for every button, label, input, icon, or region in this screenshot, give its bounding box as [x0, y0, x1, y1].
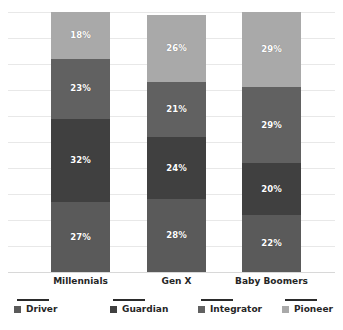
bar-segment-label: 32%	[70, 156, 91, 165]
legend-swatch-icon	[282, 306, 289, 313]
bar-segment-label: 27%	[70, 233, 91, 242]
bar-group[interactable]: 26%21%24%28%	[147, 15, 206, 272]
legend-label: Driver	[26, 305, 57, 314]
bar-stack: 18%23%32%27%	[51, 12, 110, 272]
bar-stack: 26%21%24%28%	[147, 15, 206, 272]
legend-item[interactable]: Pioneer	[282, 297, 333, 321]
legend-swatch-icon	[14, 306, 21, 313]
legend-row: Integrator	[198, 305, 262, 314]
legend-rule	[113, 299, 145, 301]
bar-segment-label: 24%	[166, 164, 187, 173]
legend-item[interactable]: Driver	[14, 297, 57, 321]
bar-segment-label: 29%	[261, 121, 282, 130]
legend-row: Guardian	[110, 305, 168, 314]
bar-segment-label: 21%	[166, 105, 187, 114]
legend-label: Integrator	[210, 305, 262, 314]
category-label: Baby Boomers	[212, 276, 332, 286]
bar-segment[interactable]: 23%	[51, 59, 110, 119]
legend-rule	[17, 299, 49, 301]
legend-label: Guardian	[122, 305, 168, 314]
bar-segment[interactable]: 21%	[147, 82, 206, 137]
legend-swatch-icon	[198, 306, 205, 313]
bar-segment-label: 20%	[261, 185, 282, 194]
bar-segment[interactable]: 29%	[242, 87, 301, 162]
legend-rule	[201, 299, 233, 301]
bar-segment[interactable]: 18%	[51, 12, 110, 59]
bar-segment[interactable]: 32%	[51, 119, 110, 202]
bar-segment-label: 22%	[261, 239, 282, 248]
legend-rule	[285, 299, 317, 301]
bar-segment-label: 23%	[70, 84, 91, 93]
stacked-bar-chart: 18%23%32%27%26%21%24%28%29%29%20%22% Mil…	[0, 0, 343, 330]
category-axis: MillennialsGen XBaby Boomers	[8, 276, 335, 292]
legend-label: Pioneer	[294, 305, 333, 314]
bar-segment[interactable]: 22%	[242, 215, 301, 272]
bar-segment-label: 29%	[261, 45, 282, 54]
chart-legend: DriverGuardianIntegratorPioneer	[0, 297, 343, 323]
legend-row: Driver	[14, 305, 57, 314]
legend-swatch-icon	[110, 306, 117, 313]
bar-segment[interactable]: 27%	[51, 202, 110, 272]
legend-row: Pioneer	[282, 305, 333, 314]
plot-area: 18%23%32%27%26%21%24%28%29%29%20%22%	[8, 12, 335, 273]
bar-segment-label: 18%	[70, 31, 91, 40]
bar-segment[interactable]: 20%	[242, 163, 301, 215]
bar-segment[interactable]: 24%	[147, 137, 206, 199]
bars-layer: 18%23%32%27%26%21%24%28%29%29%20%22%	[8, 12, 335, 273]
bar-segment[interactable]: 29%	[242, 12, 301, 87]
bar-group[interactable]: 29%29%20%22%	[242, 12, 301, 272]
bar-segment[interactable]: 26%	[147, 15, 206, 83]
bar-segment-label: 28%	[166, 231, 187, 240]
bar-stack: 29%29%20%22%	[242, 12, 301, 272]
bar-segment[interactable]: 28%	[147, 199, 206, 272]
legend-item[interactable]: Integrator	[198, 297, 262, 321]
bar-segment-label: 26%	[166, 44, 187, 53]
legend-item[interactable]: Guardian	[110, 297, 168, 321]
bar-group[interactable]: 18%23%32%27%	[51, 12, 110, 272]
